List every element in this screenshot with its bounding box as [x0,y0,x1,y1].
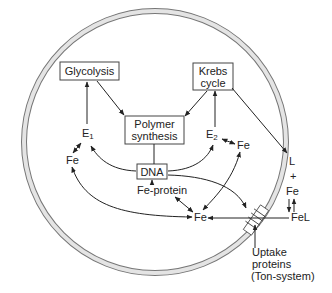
arrow-dna-e2 [168,145,213,171]
arrow-fe-e1 [73,143,81,153]
fe-outside-label: Fe [286,185,299,197]
ton-system-channel [243,205,268,235]
fe-protein-label: Fe-protein [137,184,187,196]
cycle-label: cycle [200,77,225,89]
arrow-glycolysis-polymer [97,81,124,115]
dna-label: DNA [140,166,164,178]
proteins-label: proteins [252,258,292,270]
arrow-krebs-polymer [185,91,207,116]
arrow-e2-fe [222,139,235,144]
cell-diagram: Glycolysis Krebs cycle Polymer synthesis… [0,0,332,293]
glycolysis-box: Glycolysis [60,62,119,80]
arrow-feprotein-fe [175,197,193,212]
uptake-label: Uptake [252,246,287,258]
polymer-label: Polymer [134,118,175,130]
plus-label: + [290,170,296,182]
fe-right-label: Fe [237,139,250,151]
ton-system-label: (Ton-system) [251,270,315,282]
krebs-label: Krebs [199,65,228,77]
krebs-cycle-box: Krebs cycle [193,63,233,90]
dna-box: DNA [137,164,167,179]
ligand-label: L [289,155,295,167]
glycolysis-label: Glycolysis [65,65,115,77]
fel-label: FeL [291,211,310,223]
e1-label: E1 [82,127,94,141]
fe-left-label: Fe [66,154,79,166]
arrow-dna-e1 [91,146,136,171]
arrow-fe-right-center [203,152,240,210]
polymer-synthesis-box: Polymer synthesis [125,116,184,144]
e2-label: E2 [206,128,218,142]
synthesis-label: synthesis [132,130,178,142]
fe-center-label: Fe [194,211,207,223]
